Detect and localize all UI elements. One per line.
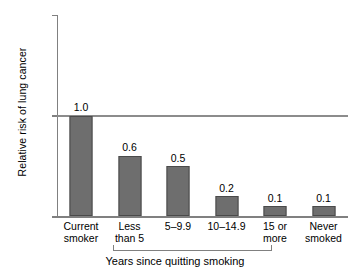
bar-slot-15-or-more: 0.1	[251, 15, 299, 216]
bar-never-smoked	[312, 206, 335, 216]
x-category-label-never-smoked: Never smoked	[294, 221, 350, 244]
x-axis-line	[57, 216, 348, 217]
bar-15-or-more	[264, 206, 287, 216]
x-category-line-2: than 5	[100, 233, 160, 245]
y-tick-mark-0	[52, 216, 57, 217]
bar-value-never-smoked: 0.1	[316, 193, 331, 204]
x-category-line-1: Never	[294, 221, 350, 233]
bar-value-current-smoker: 1.0	[74, 102, 89, 113]
bar-5-to-9-9	[167, 166, 190, 216]
group-bracket	[113, 245, 272, 251]
bar-slot-10-to-14-9: 0.2	[203, 15, 251, 216]
bar-value-5-to-9-9: 0.5	[171, 153, 186, 164]
bar-slot-current-smoker: 1.0	[57, 15, 105, 216]
y-axis-title: Relative risk of lung cancer	[16, 22, 28, 202]
bar-value-15-or-more: 0.1	[268, 193, 283, 204]
bar-10-to-14-9	[215, 196, 238, 216]
x-category-line-2: smoked	[294, 233, 350, 245]
plot-area: 1.0 0.6 0.5 0.2 0.1 0.1	[57, 15, 348, 216]
bar-chart-figure: Relative risk of lung cancer 2 1 0 1.0 0…	[0, 0, 350, 280]
bar-value-10-to-14-9: 0.2	[219, 183, 234, 194]
bar-less-than-5	[118, 156, 141, 216]
bar-current-smoker	[70, 116, 93, 217]
bar-slot-less-than-5: 0.6	[106, 15, 154, 216]
bar-slot-5-to-9-9: 0.5	[154, 15, 202, 216]
bar-value-less-than-5: 0.6	[122, 142, 137, 153]
group-bracket-caption: Years since quitting smoking	[0, 255, 350, 267]
bar-slot-never-smoked: 0.1	[300, 15, 348, 216]
